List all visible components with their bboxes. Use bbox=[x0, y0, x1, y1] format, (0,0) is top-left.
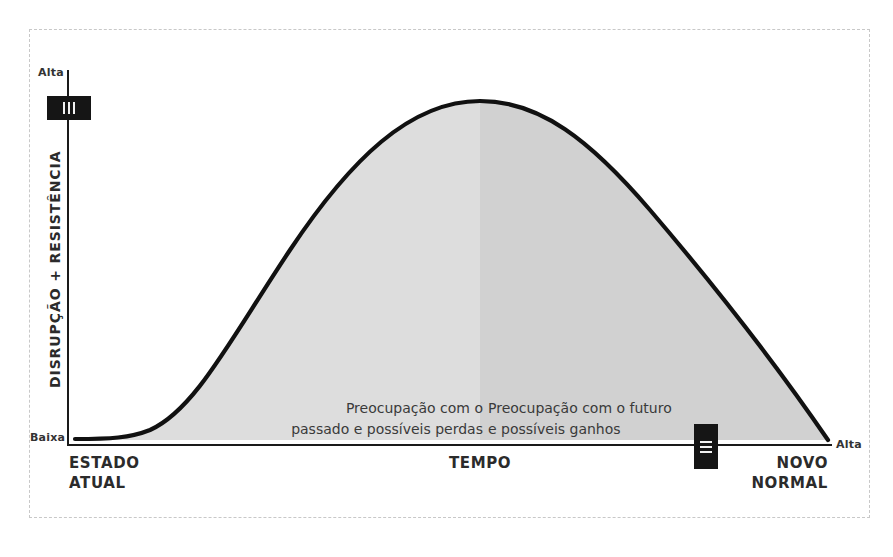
past-note-line2: passado e possíveis perdas bbox=[291, 419, 483, 440]
start-label-line2: ATUAL bbox=[69, 473, 140, 493]
marker-bar bbox=[700, 451, 712, 453]
end-label-line1: NOVO bbox=[751, 453, 828, 473]
end-label-line2: NORMAL bbox=[751, 473, 828, 493]
future-region-note: Preocupação com o futuro e possíveis gan… bbox=[488, 398, 672, 440]
marker-bar bbox=[700, 441, 712, 443]
marker-bar bbox=[63, 102, 65, 114]
marker-bar bbox=[73, 102, 75, 114]
x-axis-title: TEMPO bbox=[449, 453, 511, 473]
past-note-line1: Preocupação com o bbox=[291, 398, 483, 419]
future-note-line1: Preocupação com o futuro bbox=[488, 398, 672, 419]
past-region-fill bbox=[60, 90, 480, 445]
y-axis-bottom-label: Baixa bbox=[30, 431, 65, 444]
x-axis-end-label: NOVO NORMAL bbox=[751, 453, 828, 493]
y-axis-top-label: Alta bbox=[38, 66, 64, 79]
future-note-line2: e possíveis ganhos bbox=[488, 419, 672, 440]
marker-bar bbox=[700, 446, 712, 448]
marker-bar bbox=[68, 102, 70, 114]
future-region-fill bbox=[480, 90, 840, 445]
y-axis-title: DISRUPÇÃO + RESISTÊNCIA bbox=[47, 151, 63, 388]
stage-ii-marker bbox=[694, 424, 718, 469]
x-axis-end-alta-label: Alta bbox=[836, 438, 862, 451]
x-axis-start-label: ESTADO ATUAL bbox=[69, 453, 140, 493]
curve-area-fill bbox=[60, 90, 840, 445]
start-label-line1: ESTADO bbox=[69, 453, 140, 473]
past-region-note: Preocupação com o passado e possíveis pe… bbox=[291, 398, 483, 440]
stage-iii-marker bbox=[47, 96, 91, 120]
